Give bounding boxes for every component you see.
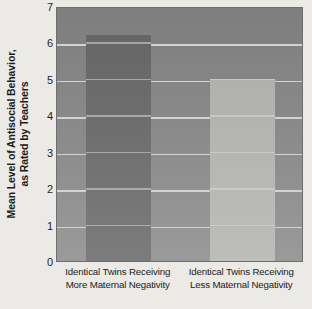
y-axis-tick-label: 2	[37, 183, 53, 195]
y-axis-tick-label: 4	[37, 110, 53, 122]
x-axis-category-label-line-2: More Maternal Negativity	[56, 279, 180, 292]
gridline	[86, 79, 151, 81]
bar-0	[86, 35, 151, 261]
gridline	[86, 115, 151, 117]
gridline	[86, 42, 151, 44]
gridline	[86, 225, 151, 227]
y-axis-tick-labels: 01234567	[36, 0, 53, 309]
y-axis-tick-label: 6	[37, 37, 53, 49]
gridline	[210, 152, 275, 154]
y-axis-tick-label: 1	[37, 220, 53, 232]
x-axis-category-label-line-1: Identical Twins Receiving	[56, 266, 180, 279]
y-axis-tick-label: 7	[37, 1, 53, 13]
x-axis-category-label: Identical Twins ReceivingLess Maternal N…	[180, 266, 304, 291]
gridline	[86, 152, 151, 154]
gridline	[86, 188, 151, 190]
y-axis-tick-label: 0	[37, 256, 53, 268]
gridline	[210, 188, 275, 190]
plot-area	[56, 7, 303, 262]
bar-chart-figure: Mean Level of Antisocial Behavior, as Ra…	[0, 0, 312, 309]
x-axis-category-label: Identical Twins ReceivingMore Maternal N…	[56, 266, 180, 291]
y-axis-title-line-2: as Rated by Teachers	[18, 50, 31, 219]
x-axis-category-label-line-1: Identical Twins Receiving	[180, 266, 304, 279]
x-axis-category-label-line-2: Less Maternal Negativity	[180, 279, 304, 292]
x-axis-category-labels: Identical Twins ReceivingMore Maternal N…	[56, 266, 303, 306]
y-axis-title-line-1: Mean Level of Antisocial Behavior,	[5, 50, 17, 219]
gridline	[210, 79, 275, 81]
y-axis-tick-label: 5	[37, 74, 53, 86]
gridline	[210, 225, 275, 227]
bar-1	[210, 79, 275, 261]
gridline	[210, 115, 275, 117]
y-axis-tick-label: 3	[37, 147, 53, 159]
y-axis-title: Mean Level of Antisocial Behavior, as Ra…	[0, 0, 36, 268]
